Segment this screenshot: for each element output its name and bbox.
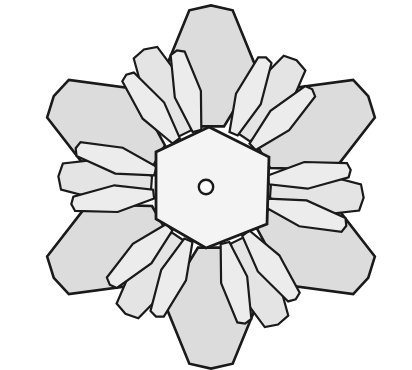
figure-canvas: Hexagonal Rosette Medallion A six-fold s… bbox=[0, 0, 412, 370]
rosette-diagram: Hexagonal Rosette Medallion A six-fold s… bbox=[0, 0, 412, 370]
center-circle bbox=[199, 180, 213, 194]
